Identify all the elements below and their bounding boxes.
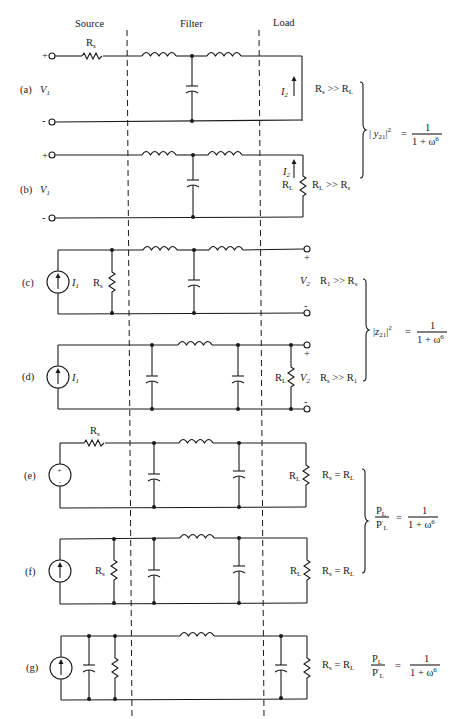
inductor-icon <box>143 247 177 251</box>
svg-text:1 + ω6: 1 + ω6 <box>408 518 435 530</box>
svg-text:=: = <box>401 128 407 139</box>
svg-text:1: 1 <box>422 505 427 516</box>
svg-text:PL: PL <box>372 653 382 666</box>
formula-y21: | y21|2 = 1 1 + ω6 <box>369 122 442 147</box>
source-resistor-icon <box>111 558 117 582</box>
circuit-f: (f) Rs RL Rs = RL <box>25 535 354 606</box>
load-resistor-icon <box>300 174 306 198</box>
i2-label: I2 <box>282 166 291 179</box>
minus-sign: - <box>304 396 308 407</box>
header-source: Source <box>75 18 104 29</box>
rl-label: RL <box>290 565 301 578</box>
input-terminal-plus <box>49 53 55 59</box>
condition-c: R1 >> Rs <box>320 275 358 288</box>
load-resistor-icon <box>288 365 294 389</box>
plus-sign: + <box>58 467 62 475</box>
circuit-a-input: V1 <box>40 84 50 97</box>
circuit-b-label: (b) <box>20 184 33 196</box>
condition-d: Rs >> R1 <box>320 372 358 385</box>
rs-label: Rs <box>90 425 100 438</box>
circuit-b: (b) V1 + - I2 RL RL >> Rs <box>20 150 350 223</box>
condition-e: Rs = RL <box>322 469 354 482</box>
filter-termination-diagram: Source Filter Load (a) V1 + - Rs I2 Rs >… <box>0 0 464 719</box>
circuit-c: (c) I1 Rs + - V2 R1 >> Rs <box>22 246 358 316</box>
header-load: Load <box>273 17 295 28</box>
minus-sign: - <box>42 212 46 223</box>
circuit-e-label: (e) <box>24 470 36 482</box>
circuit-a: (a) V1 + - Rs I2 Rs >> RL <box>20 37 353 126</box>
inductor-icon <box>209 247 243 251</box>
filter-load-divider <box>259 30 264 719</box>
svg-text:=: = <box>405 326 411 337</box>
inductor-icon <box>180 633 214 637</box>
rl-label: RL <box>289 470 300 483</box>
minus-sign: - <box>59 478 62 486</box>
rs-label: Rs <box>95 565 105 578</box>
svg-text:1 + ω6: 1 + ω6 <box>417 333 444 345</box>
inductor-icon <box>142 53 176 57</box>
load-resistor-icon <box>304 558 310 582</box>
formula-z21: |z21|2 = 1 1 + ω6 <box>373 320 447 345</box>
source-resistor-icon <box>84 440 104 446</box>
minus-sign: - <box>42 115 46 126</box>
svg-text:|z21|2: |z21|2 <box>373 324 392 339</box>
svg-text:PL: PL <box>376 505 386 518</box>
circuit-g: (g) Rs = RL <box>26 633 354 702</box>
v2-label: V2 <box>300 275 310 288</box>
inductor-icon <box>142 152 176 156</box>
inductor-icon <box>208 152 242 156</box>
inductor-icon <box>180 535 214 539</box>
svg-text:P′L: P′L <box>376 519 388 532</box>
inductor-icon <box>207 53 241 57</box>
formula-power-ef: PL P′L = 1 1 + ω6 <box>375 505 438 532</box>
load-resistor-icon <box>304 656 310 680</box>
inductor-icon <box>178 342 212 346</box>
svg-text:1 + ω6: 1 + ω6 <box>410 666 437 678</box>
condition-a: Rs >> RL <box>315 83 353 96</box>
circuit-d: (d) I1 RL + - V2 Rs >> R1 <box>22 342 358 413</box>
svg-text:| y21|2: | y21|2 <box>369 126 392 141</box>
source-filter-divider <box>127 30 132 719</box>
svg-text:=: = <box>395 660 401 671</box>
input-terminal-minus <box>49 215 55 221</box>
plus-sign: + <box>42 50 48 61</box>
svg-text:1: 1 <box>425 122 430 133</box>
input-terminal-plus <box>49 152 55 158</box>
inductor-icon <box>179 440 213 444</box>
plus-sign: + <box>42 150 48 161</box>
svg-text:1 + ω6: 1 + ω6 <box>412 135 439 147</box>
formula-power-g: PL P′L = 1 1 + ω6 <box>371 653 440 680</box>
brace-ab <box>360 82 366 178</box>
svg-text:=: = <box>396 512 402 523</box>
source-resistor-icon <box>112 656 118 680</box>
circuit-a-label: (a) <box>20 84 32 96</box>
plus-sign: + <box>304 252 310 263</box>
source-resistor-icon <box>109 270 115 294</box>
condition-f: Rs = RL <box>322 565 354 578</box>
rl-label: RL <box>275 372 286 385</box>
rs-label: Rs <box>93 277 103 290</box>
circuit-g-label: (g) <box>26 662 39 674</box>
rl-label: RL <box>282 179 293 192</box>
brace-cd <box>363 279 369 381</box>
source-resistor-icon <box>82 53 102 59</box>
input-terminal-minus <box>49 119 55 125</box>
circuit-f-label: (f) <box>25 566 36 578</box>
i1-label: I1 <box>71 277 79 290</box>
header-filter: Filter <box>180 18 203 29</box>
i2-label: I2 <box>280 86 289 99</box>
load-resistor-icon <box>303 463 309 487</box>
condition-b: RL >> Rs <box>312 179 350 192</box>
minus-sign: - <box>304 300 308 311</box>
brace-ef <box>362 469 368 573</box>
v2-label: V2 <box>300 372 310 385</box>
circuit-b-input: V1 <box>40 184 50 197</box>
rs-label: Rs <box>86 37 96 50</box>
svg-text:P′L: P′L <box>372 667 384 680</box>
condition-g: Rs = RL <box>322 659 354 672</box>
circuit-c-label: (c) <box>22 277 34 289</box>
i1-label: I1 <box>71 372 79 385</box>
circuit-d-label: (d) <box>22 371 35 383</box>
circuit-e: (e) + - Rs RL Rs = RL <box>24 425 354 509</box>
svg-text:1: 1 <box>430 320 435 331</box>
